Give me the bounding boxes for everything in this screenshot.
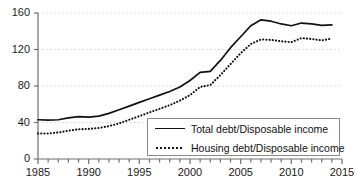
- x-axis-tick-label-2015: 2015: [325, 167, 357, 178]
- y-axis-tick-label-0: 0: [0, 153, 30, 164]
- gridlines: [38, 13, 342, 123]
- chart-legend: Total debt/Disposable income Housing deb…: [147, 118, 340, 156]
- dotted-line-sample-icon: [155, 142, 185, 154]
- x-axis-tick-label-1990: 1990: [72, 167, 106, 178]
- x-axis-tick-marks: [38, 159, 342, 164]
- x-axis-tick-label-2005: 2005: [224, 167, 258, 178]
- x-axis-tick-label-1985: 1985: [21, 167, 55, 178]
- legend-label-housing-debt: Housing debt/Disposable income: [191, 142, 345, 154]
- chart-plot-area: [0, 0, 357, 189]
- x-axis-tick-label-2010: 2010: [274, 167, 308, 178]
- y-axis-tick-label-120: 120: [0, 44, 30, 55]
- y-axis-tick-label-40: 40: [0, 117, 30, 128]
- y-axis-tick-label-80: 80: [0, 80, 30, 91]
- x-axis-tick-label-1995: 1995: [122, 167, 156, 178]
- x-axis-tick-label-2000: 2000: [173, 167, 207, 178]
- legend-item-total-debt: Total debt/Disposable income: [148, 119, 328, 138]
- data-series-group: [38, 20, 332, 134]
- series-line-total-debt: [38, 20, 332, 120]
- solid-line-sample-icon: [155, 123, 185, 135]
- legend-label-total-debt: Total debt/Disposable income: [191, 123, 328, 135]
- legend-item-housing-debt: Housing debt/Disposable income: [148, 138, 345, 157]
- chart-container: 04080120160 1985199019952000200520102015…: [0, 0, 357, 189]
- y-axis-tick-label-160: 160: [0, 7, 30, 18]
